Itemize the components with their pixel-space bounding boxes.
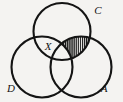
set-label-d: D (6, 82, 15, 94)
set-label-c: C (94, 4, 102, 16)
venn-diagram-canvas: C D A X (0, 0, 123, 102)
region-label-x: X (44, 40, 53, 52)
set-label-a: A (100, 82, 108, 94)
venn-diagram-figure: C D A X (0, 0, 123, 102)
